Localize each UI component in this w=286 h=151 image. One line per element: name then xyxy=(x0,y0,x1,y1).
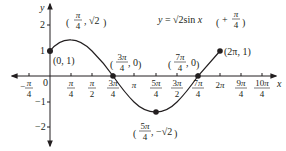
svg-text:4: 4 xyxy=(239,89,244,99)
svg-text:(: ( xyxy=(110,59,114,71)
svg-text:(: ( xyxy=(66,17,70,29)
svg-text:): ) xyxy=(103,17,106,29)
svg-text:9π: 9π xyxy=(236,78,246,88)
svg-text:4: 4 xyxy=(178,63,183,73)
svg-text:4: 4 xyxy=(69,89,74,99)
svg-text:−: − xyxy=(20,81,25,91)
svg-text:): ) xyxy=(196,59,199,71)
point-2pi-1 xyxy=(217,48,223,54)
svg-text:3π: 3π xyxy=(108,78,118,88)
svg-text:+: + xyxy=(222,14,228,25)
svg-text:): ) xyxy=(242,17,245,29)
svg-text:π: π xyxy=(234,9,239,19)
label-0-1: (0, 1) xyxy=(53,55,75,67)
svg-text:π: π xyxy=(69,78,74,88)
svg-text:): ) xyxy=(174,128,177,140)
y-tick-2: 2 xyxy=(40,19,45,30)
svg-text:): ) xyxy=(138,59,141,71)
chart: y x 2 1 −1 −2 − π 4 0 π 4 π xyxy=(0,0,286,151)
svg-text:(: ( xyxy=(133,128,137,140)
point-3pi4-0 xyxy=(110,73,116,79)
svg-text:4: 4 xyxy=(143,132,148,142)
svg-text:2: 2 xyxy=(175,89,180,99)
y-tick-neg1: −1 xyxy=(35,96,46,107)
svg-text:5π: 5π xyxy=(151,78,161,88)
svg-text:4: 4 xyxy=(260,89,265,99)
svg-text:4: 4 xyxy=(154,89,159,99)
label-pi4-sqrt2: ( π 4 , √2 ) xyxy=(66,10,106,31)
svg-text:, √2: , √2 xyxy=(84,15,100,26)
y-tick-neg2: −2 xyxy=(35,121,46,132)
svg-text:3π: 3π xyxy=(117,52,127,62)
svg-text:4: 4 xyxy=(120,63,125,73)
svg-text:4: 4 xyxy=(234,20,239,30)
y-tick-1: 1 xyxy=(40,45,45,56)
point-0-1 xyxy=(47,48,53,54)
svg-text:π: π xyxy=(90,78,95,88)
svg-text:2π: 2π xyxy=(215,80,225,90)
svg-text:(: ( xyxy=(216,17,220,29)
svg-text:2: 2 xyxy=(90,89,95,99)
x-tick-labels: − π 4 0 π 4 π 2 3π 4 π 5π 4 3π 2 7π 4 2π… xyxy=(20,77,270,99)
svg-text:10π: 10π xyxy=(255,78,269,88)
svg-text:π: π xyxy=(132,80,137,90)
svg-text:0: 0 xyxy=(43,77,48,88)
svg-text:4: 4 xyxy=(76,21,81,31)
label-7pi4-0: ( 7π 4 , 0 ) xyxy=(168,52,199,73)
svg-text:, 0: , 0 xyxy=(186,57,196,68)
svg-text:5π: 5π xyxy=(140,121,150,131)
svg-text:(: ( xyxy=(168,59,172,71)
point-5pi4-min xyxy=(153,109,159,115)
svg-text:π: π xyxy=(76,10,81,20)
svg-text:3π: 3π xyxy=(172,78,182,88)
point-7pi4-0 xyxy=(195,73,201,79)
svg-text:, 0: , 0 xyxy=(128,57,138,68)
svg-text:π: π xyxy=(27,78,32,88)
svg-text:4: 4 xyxy=(27,89,32,99)
svg-text:7π: 7π xyxy=(175,52,185,62)
svg-text:, −√2: , −√2 xyxy=(151,126,172,137)
label-3pi4-0: ( 3π 4 , 0 ) xyxy=(110,52,141,73)
svg-text:4: 4 xyxy=(196,89,201,99)
label-5pi4-neg-sqrt2: ( 5π 4 , −√2 ) xyxy=(133,121,177,142)
svg-text:y = √2sin x: y = √2sin x xyxy=(157,14,203,25)
label-2pi-1: (2π, 1) xyxy=(224,46,251,58)
y-axis-label: y xyxy=(39,2,45,13)
svg-text:4: 4 xyxy=(111,89,116,99)
x-axis-label: x xyxy=(276,78,282,89)
equation-title: y = √2sin x ( + π 4 ) xyxy=(157,9,245,30)
